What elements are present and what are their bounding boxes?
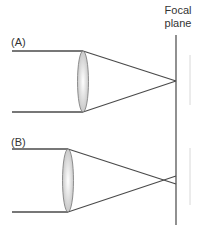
lens-b xyxy=(63,149,74,212)
refracted-ray-bottom xyxy=(83,81,176,112)
lens-a xyxy=(78,51,89,112)
refracted-ray-bottom xyxy=(68,176,176,212)
panel-b xyxy=(12,149,176,212)
panel-a-label: (A) xyxy=(11,36,26,48)
lens-focus-diagram xyxy=(0,0,199,235)
focal-plane-label: Focal plane xyxy=(158,4,198,30)
refracted-ray-top xyxy=(83,51,176,81)
refracted-ray-top xyxy=(68,149,176,184)
focal-plane-label-line1: Focal xyxy=(158,4,198,17)
focal-plane-label-line2: plane xyxy=(158,17,198,30)
panel-b-label: (B) xyxy=(11,136,26,148)
panel-a xyxy=(12,51,176,112)
